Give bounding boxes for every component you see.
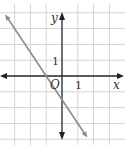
y-axis-label: y — [50, 11, 58, 25]
x-axis-arrow-left-icon — [0, 73, 7, 79]
origin-label: O — [50, 78, 60, 92]
coordinate-plane: y x O 1 1 — [0, 0, 125, 147]
y-tick-label-1: 1 — [52, 55, 59, 68]
axes — [0, 12, 124, 140]
x-axis-label: x — [113, 78, 120, 92]
x-tick-label-1: 1 — [75, 79, 82, 92]
